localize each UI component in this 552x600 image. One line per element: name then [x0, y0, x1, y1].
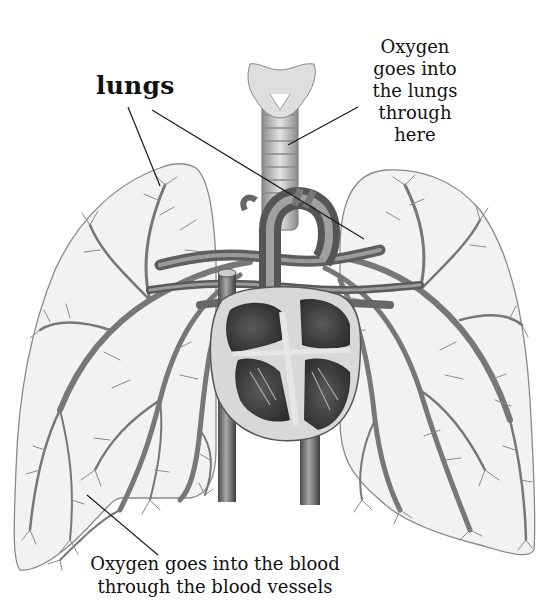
larynx [248, 64, 315, 118]
lungs-label: lungs [96, 72, 174, 101]
heart [210, 287, 360, 441]
lungs-diagram: lungs Oxygen goes into the lungs through… [0, 0, 552, 600]
blood-vessels-label: Oxygen goes into the blood through the b… [60, 552, 370, 598]
trachea-label: Oxygen goes into the lungs through here [360, 36, 470, 146]
